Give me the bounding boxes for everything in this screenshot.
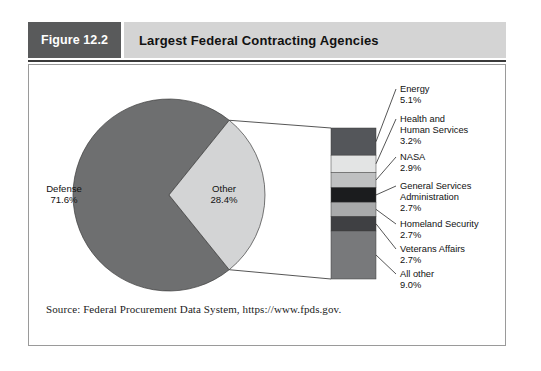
- callout-connector-bottom: [229, 270, 331, 279]
- leader-line-energy: [376, 89, 396, 142]
- pie-label-defense: Defense71.6%: [46, 183, 82, 205]
- bar-segment-veterans-affairs: [331, 217, 376, 231]
- leader-line-health-and-human-services: [376, 119, 396, 164]
- leader-line-veterans-affairs: [376, 224, 396, 249]
- bar-segment-health-and-human-services: [331, 155, 376, 172]
- bar-label-energy: Energy5.1%: [400, 84, 430, 105]
- bar-label-all-other: All other9.0%: [400, 269, 434, 290]
- figure-number-badge: Figure 12.2: [28, 22, 121, 58]
- bar-label-nasa: NASA2.9%: [400, 152, 426, 173]
- bar-segment-all-other: [331, 231, 376, 279]
- leader-line-all-other: [376, 255, 396, 274]
- bar-label-health-and-human-services: Health andHuman Services3.2%: [400, 114, 469, 146]
- figure-title-text: Largest Federal Contracting Agencies: [124, 33, 379, 48]
- pie-label-other: Other28.4%: [210, 183, 238, 205]
- bar-label-homeland-security: Homeland Security2.7%: [400, 219, 479, 240]
- source-note: Source: Federal Procurement Data System,…: [46, 303, 341, 315]
- bar-label-general-services-administration: General ServicesAdministration2.7%: [400, 181, 472, 213]
- bar-segment-homeland-security: [331, 202, 376, 216]
- leader-line-nasa: [376, 157, 396, 180]
- figure-header: Figure 12.2 Largest Federal Contracting …: [28, 22, 506, 58]
- callout-connector-top: [229, 120, 331, 128]
- figure-number-label: Figure 12.2: [41, 33, 108, 47]
- leader-line-homeland-security: [376, 209, 396, 224]
- leader-line-general-services-administration: [376, 186, 396, 195]
- figure-container: Figure 12.2 Largest Federal Contracting …: [28, 22, 506, 346]
- header-divider: [28, 60, 506, 62]
- figure-title-bar: Largest Federal Contracting Agencies: [124, 22, 506, 58]
- bar-segment-general-services-administration: [331, 188, 376, 202]
- bar-segment-nasa: [331, 172, 376, 187]
- bar-label-veterans-affairs: Veterans Affairs2.7%: [400, 244, 465, 265]
- bar-segment-energy: [331, 128, 376, 155]
